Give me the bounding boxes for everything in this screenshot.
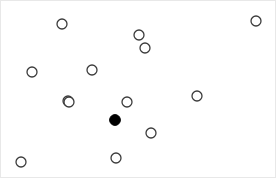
filled-points-layer — [110, 115, 121, 126]
data-point[interactable] — [134, 30, 144, 40]
data-point[interactable] — [16, 157, 26, 167]
plot-background — [1, 1, 276, 178]
data-point[interactable] — [122, 97, 132, 107]
scatter-plot-canvas — [1, 1, 276, 178]
data-point[interactable] — [251, 16, 261, 26]
data-point[interactable] — [57, 19, 67, 29]
data-point-highlighted[interactable] — [110, 115, 121, 126]
data-point[interactable] — [146, 128, 156, 138]
data-point[interactable] — [192, 91, 202, 101]
data-point[interactable] — [111, 153, 121, 163]
scatter-plot-figure — [0, 0, 276, 178]
data-point[interactable] — [27, 67, 37, 77]
data-point[interactable] — [140, 43, 150, 53]
data-point[interactable] — [87, 65, 97, 75]
data-point[interactable] — [64, 97, 74, 107]
